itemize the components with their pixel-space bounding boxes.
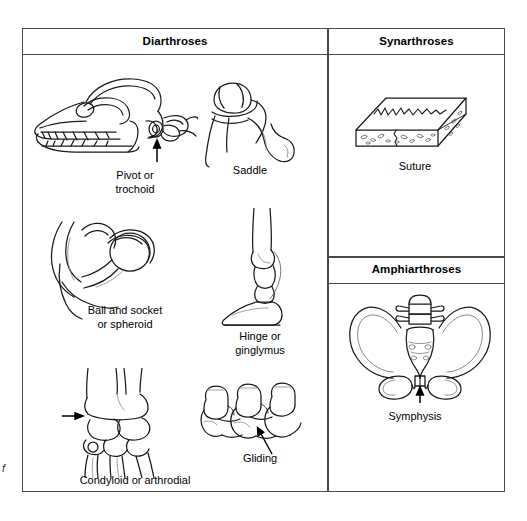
- synarthroses-header-rule: [328, 54, 505, 55]
- caption-hinge: Hinge or ginglymus: [200, 330, 320, 357]
- section-title-synarthroses: Synarthroses: [328, 35, 505, 47]
- figure-canvas: Diarthroses Synarthroses Amphiarthroses: [0, 0, 527, 521]
- section-title-diarthroses: Diarthroses: [23, 35, 327, 47]
- illustration-symphysis-joint: [345, 290, 495, 405]
- illustration-suture-joint: [352, 86, 472, 158]
- amphiarthroses-header-rule: [328, 283, 505, 284]
- column-divider: [327, 28, 329, 492]
- caption-pivot: Pivot or trochoid: [60, 169, 210, 196]
- illustration-saddle-joint: [196, 78, 301, 168]
- pivot-joint-arrow: [154, 140, 161, 162]
- caption-gliding: Gliding: [200, 452, 320, 466]
- illustration-hinge-joint: [210, 208, 305, 328]
- caption-suture: Suture: [340, 160, 490, 174]
- caption-ball-and-socket: Ball and socket or spheroid: [50, 304, 200, 331]
- condyloid-joint-arrow: [62, 413, 83, 419]
- margin-text-fragment: f: [2, 462, 5, 474]
- illustration-pivot-joint-skull: [28, 66, 198, 166]
- symphysis-arrow: [417, 387, 424, 403]
- illustration-condyloid-joint: [60, 368, 190, 478]
- amphiarthroses-section-rule: [328, 256, 505, 258]
- caption-condyloid: Condyloid or arthrodial: [40, 474, 230, 488]
- diarthroses-header-rule: [23, 54, 327, 55]
- illustration-gliding-joint: [198, 378, 308, 458]
- caption-saddle: Saddle: [195, 164, 305, 178]
- section-title-amphiarthroses: Amphiarthroses: [328, 263, 505, 275]
- caption-symphysis: Symphysis: [340, 410, 490, 424]
